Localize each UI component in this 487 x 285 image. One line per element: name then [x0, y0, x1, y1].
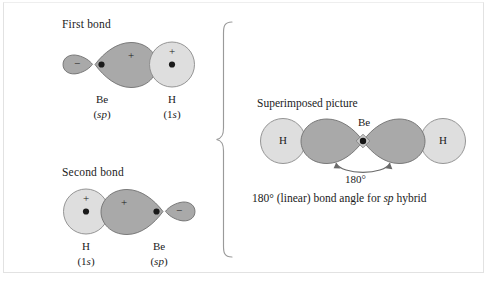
hydrogen-orbital-label-first-bond: (1s)	[157, 108, 187, 121]
be-large-lobe-sign-first-bond: +	[128, 49, 134, 62]
beryllium-element-label-second-bond: Be	[143, 240, 175, 253]
hydrogen-element-label-second-bond: H	[71, 240, 101, 253]
beryllium-nucleus-dot-first-bond	[98, 61, 104, 67]
be-large-lobe-sign-second-bond: +	[121, 196, 127, 209]
grouping-brace	[217, 22, 233, 257]
hydrogen-sign-second-bond: +	[83, 192, 89, 205]
superimposed-picture-heading: Superimposed picture	[257, 97, 358, 110]
second-bond-heading: Second bond	[62, 166, 124, 179]
orbital-italic: sp	[154, 255, 164, 267]
caption-italic: sp	[383, 192, 393, 204]
hydrogen-right-label-superimposed: H	[431, 134, 455, 147]
hydrogen-sign-first-bond: +	[169, 45, 175, 58]
bond-angle-arrow	[336, 163, 390, 172]
beryllium-nucleus-dot-second-bond	[153, 208, 159, 214]
bond-angle-label: 180°	[345, 173, 366, 186]
orbital-italic: sp	[97, 108, 107, 120]
hydrogen-orbital-label-second-bond: (1s)	[71, 255, 101, 268]
figure-root: First bond − + + Be (sp) H (1s) Second b…	[0, 0, 487, 285]
beryllium-orbital-label-first-bond: (sp)	[86, 108, 118, 121]
paren-open: (1	[77, 255, 86, 267]
beryllium-element-label-first-bond: Be	[86, 93, 118, 106]
beryllium-label-superimposed: Be	[352, 116, 376, 129]
figure-caption: 180° (linear) bond angle for sp hybrid	[252, 192, 427, 205]
hydrogen-left-label-superimposed: H	[271, 134, 295, 147]
be-small-lobe-sign-first-bond: −	[74, 57, 80, 70]
be-small-lobe-sign-second-bond: −	[176, 204, 182, 217]
caption-after: hybrid	[394, 192, 427, 204]
beryllium-orbital-label-second-bond: (sp)	[143, 255, 175, 268]
paren-close: )	[91, 255, 95, 267]
paren-close: )	[107, 108, 111, 120]
beryllium-nucleus-dot-superimposed	[360, 138, 366, 144]
hydrogen-nucleus-dot-first-bond	[169, 61, 175, 67]
paren-open: (1	[163, 108, 172, 120]
paren-close: )	[164, 255, 168, 267]
hydrogen-nucleus-dot-second-bond	[83, 208, 89, 214]
first-bond-heading: First bond	[62, 18, 111, 31]
caption-before: 180° (linear) bond angle for	[252, 192, 383, 204]
hydrogen-element-label-first-bond: H	[157, 93, 187, 106]
paren-close: )	[177, 108, 181, 120]
